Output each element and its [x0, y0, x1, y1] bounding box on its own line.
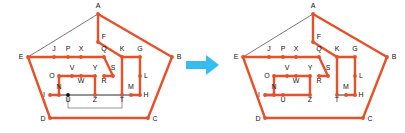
vertex-label-Q: Q — [316, 45, 322, 53]
vertex-label-Z: Z — [308, 96, 313, 103]
graph-vertex-B — [385, 55, 389, 59]
graph-edge-BC — [363, 57, 387, 118]
after-diagram: ABCDEFGHIJKLMNOPQRSTUVWXYZ — [215, 0, 405, 133]
graph-vertex-K — [335, 55, 339, 59]
vertex-label-B: B — [177, 53, 182, 60]
figure-root: ABCDEFGHIJKLMNOPQRSTUVWXYZ ABCDEFGHIJKLM… — [0, 0, 405, 133]
vertex-label-H: H — [358, 91, 363, 98]
vertex-label-C: C — [367, 115, 372, 122]
graph-edge-DE — [243, 57, 265, 118]
graph-vertex-L — [353, 74, 357, 78]
vertex-label-X: X — [79, 45, 84, 52]
vertex-label-U: U — [65, 96, 70, 103]
vertex-layer — [26, 12, 174, 120]
vertex-label-I: I — [43, 91, 45, 98]
vertex-label-D: D — [40, 115, 45, 122]
vertex-label-W: W — [78, 77, 85, 84]
vertex-label-T: T — [335, 96, 340, 103]
graph-vertex-X — [294, 55, 298, 59]
vertex-label-K: K — [335, 45, 340, 52]
graph-vertex-I — [48, 93, 52, 97]
graph-vertex-O — [272, 74, 276, 78]
vertex-label-E: E — [19, 53, 24, 60]
vertex-label-P: P — [66, 45, 71, 52]
graph-vertex-V — [285, 74, 289, 78]
graph-vertex-E — [241, 55, 245, 59]
vertex-label-X: X — [294, 45, 299, 52]
vertex-label-S: S — [111, 64, 116, 71]
graph-vertex-P — [281, 55, 285, 59]
vertex-layer — [241, 12, 389, 120]
vertex-label-P: P — [281, 45, 286, 52]
graph-vertex-G — [138, 55, 142, 59]
vertex-label-G: G — [352, 45, 357, 52]
vertex-label-Y: Y — [308, 64, 313, 71]
graph-vertex-K — [120, 55, 124, 59]
graph-vertex-F — [96, 40, 100, 44]
vertex-label-L: L — [359, 72, 363, 79]
graph-vertex-X — [79, 55, 83, 59]
vertex-label-V: V — [70, 64, 75, 71]
vertex-label-J: J — [267, 45, 271, 52]
vertex-label-I: I — [258, 91, 260, 98]
graph-vertex-N — [272, 93, 276, 97]
vertex-label-K: K — [120, 45, 125, 52]
graph-vertex-I — [263, 93, 267, 97]
thin-edge-layer — [28, 14, 98, 57]
after-diagram-svg: ABCDEFGHIJKLMNOPQRSTUVWXYZ — [215, 0, 405, 133]
before-diagram: ABCDEFGHIJKLMNOPQRSTUVWXYZ — [0, 0, 190, 133]
graph-vertex-F — [311, 40, 315, 44]
graph-vertex-H — [138, 93, 142, 97]
graph-vertex-D — [263, 116, 267, 120]
graph-vertex-Q — [102, 55, 106, 59]
vertex-label-Y: Y — [93, 64, 98, 71]
graph-edge-BC — [148, 57, 172, 118]
vertex-label-H: H — [143, 91, 148, 98]
vertex-label-R: R — [101, 77, 106, 84]
graph-vertex-Q — [317, 55, 321, 59]
vertex-label-M: M — [128, 83, 134, 90]
vertex-label-J: J — [52, 45, 56, 52]
vertex-label-A: A — [311, 2, 316, 9]
graph-vertex-D — [48, 116, 52, 120]
vertex-label-N: N — [56, 83, 61, 90]
vertex-label-M: M — [343, 83, 349, 90]
graph-edge-EA — [243, 14, 313, 57]
graph-vertex-J — [52, 55, 56, 59]
graph-vertex-A — [96, 12, 100, 16]
vertex-label-V: V — [285, 64, 290, 71]
graph-vertex-B — [170, 55, 174, 59]
graph-vertex-O — [57, 74, 61, 78]
graph-vertex-J — [267, 55, 271, 59]
vertex-label-Z: Z — [93, 96, 98, 103]
vertex-label-Q: Q — [101, 45, 107, 53]
vertex-label-B: B — [392, 53, 397, 60]
vertex-label-T: T — [120, 96, 125, 103]
graph-vertex-V — [70, 74, 74, 78]
vertex-label-N: N — [271, 83, 276, 90]
vertex-label-F: F — [102, 33, 106, 40]
graph-vertex-P — [66, 55, 70, 59]
graph-vertex-C — [361, 116, 365, 120]
graph-vertex-M — [344, 93, 348, 97]
graph-vertex-S — [111, 74, 115, 78]
graph-vertex-L — [138, 74, 142, 78]
vertex-label-R: R — [316, 77, 321, 84]
thin-edge-layer — [243, 14, 313, 57]
vertex-label-L: L — [144, 72, 148, 79]
vertex-label-D: D — [255, 115, 260, 122]
vertex-label-O: O — [264, 72, 270, 79]
graph-edge-AB — [313, 14, 387, 57]
graph-edge-DE — [28, 57, 50, 118]
graph-edge-EA — [28, 14, 98, 57]
thick-edge-layer — [28, 14, 172, 118]
vertex-label-U: U — [280, 96, 285, 103]
graph-vertex-G — [353, 55, 357, 59]
graph-vertex-M — [129, 93, 133, 97]
graph-vertex-N — [57, 93, 61, 97]
vertex-label-S: S — [326, 64, 331, 71]
vertex-label-A: A — [96, 2, 101, 9]
vertex-label-F: F — [317, 33, 321, 40]
thick-edge-layer — [243, 14, 387, 118]
vertex-label-G: G — [137, 45, 142, 52]
